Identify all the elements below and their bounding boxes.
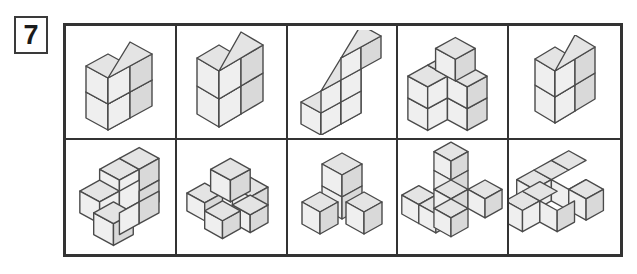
cube-figure-stepped-l-structure [66,145,175,250]
cube-cell-9 [398,140,509,254]
cube-figure-base-block-with-tower [398,30,507,135]
cube-cell-8 [288,140,399,254]
cube-cell-7 [177,140,288,254]
cube-figure-full-two-cube [179,30,284,135]
cube-cell-10 [509,140,620,254]
cube-figure-staircase-three-step [289,30,394,135]
cube-cell-1 [66,26,177,140]
exercise-number-label: 7 [23,22,38,49]
cube-structure-grid [63,23,623,257]
cube-figure-small-four-cube-block [517,35,612,130]
exercise-number-badge: 7 [14,16,48,54]
cube-cell-6 [66,140,177,254]
cube-figure-two-by-two-square-block [68,30,173,135]
cube-figure-tripod-plus-tower [398,141,507,253]
cube-cell-2 [177,26,288,140]
cube-cell-4 [398,26,509,140]
cube-cell-3 [288,26,399,140]
cube-figure-wide-stepped-slab [509,147,620,247]
worksheet-page: 7 [0,0,637,274]
cube-figure-t-tower [292,142,392,252]
cube-cell-5 [509,26,620,140]
cube-figure-cross-shape-raised-center [177,147,286,247]
